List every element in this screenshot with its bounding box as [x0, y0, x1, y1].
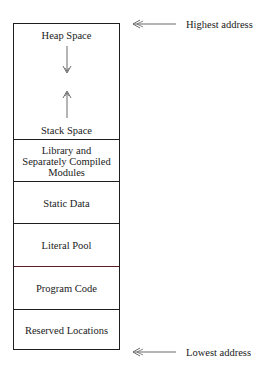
highest-address-marker: Highest address — [131, 18, 253, 30]
literal-pool-region: Literal Pool — [14, 224, 119, 267]
program-code-label: Program Code — [36, 283, 97, 294]
highest-address-label: Highest address — [186, 19, 253, 30]
reserved-label: Reserved Locations — [25, 325, 108, 336]
static-data-region: Static Data — [14, 182, 119, 224]
library-label-line-2: Separately Compiled — [22, 156, 110, 167]
heap-space-label: Heap Space — [14, 30, 119, 41]
stack-space-label: Stack Space — [14, 125, 119, 136]
library-region: Library and Separately Compiled Modules — [14, 140, 119, 182]
reserved-region: Reserved Locations — [14, 310, 119, 350]
library-label-line-3: Modules — [48, 167, 85, 178]
library-label-line-1: Library and — [42, 145, 91, 156]
static-data-label: Static Data — [43, 198, 89, 209]
literal-pool-label: Literal Pool — [42, 240, 92, 251]
lowest-address-marker: Lowest address — [131, 346, 251, 358]
left-arrow-icon — [131, 346, 176, 358]
heap-stack-region: Heap Space Stack Space — [14, 24, 119, 140]
memory-layout-box: Heap Space Stack Space Library and Separ… — [13, 23, 120, 350]
left-arrow-icon — [131, 18, 176, 30]
lowest-address-label: Lowest address — [186, 347, 251, 358]
program-code-region: Program Code — [14, 267, 119, 309]
